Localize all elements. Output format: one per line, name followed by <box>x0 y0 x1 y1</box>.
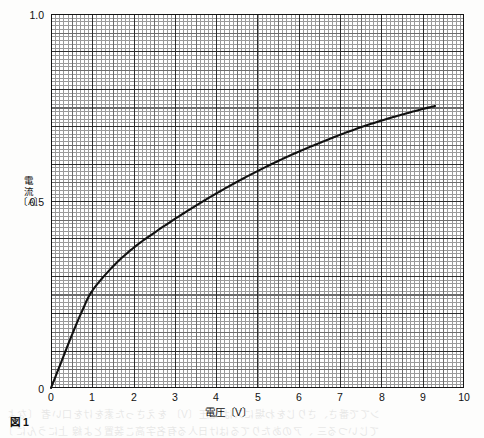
x-tick-label: 9 <box>408 391 438 403</box>
mid-gridlines <box>51 14 464 388</box>
x-tick-label: 3 <box>160 391 190 403</box>
y-axis-title-unit: 〔A〕 <box>18 197 40 208</box>
x-axis-title: 電圧〔V〕 <box>205 404 252 419</box>
x-tick-label: 7 <box>325 391 355 403</box>
y-tick-label: 1.0 <box>12 9 44 21</box>
y-axis-title-char: 電 <box>18 176 40 187</box>
plot-area <box>51 14 464 388</box>
x-tick-label: 5 <box>243 391 273 403</box>
x-tick-label: 2 <box>119 391 149 403</box>
x-tick-label: 1 <box>77 391 107 403</box>
x-tick-label: 10 <box>449 391 479 403</box>
x-tick-label: 8 <box>367 391 397 403</box>
x-tick-label: 6 <box>284 391 314 403</box>
major-gridlines <box>51 14 464 388</box>
y-axis-title: 電 流 〔A〕 <box>18 176 40 208</box>
iv-characteristic-figure: 0 1 2 3 4 5 6 7 8 9 10 0 0.5 1.0 電 流 〔A〕… <box>0 0 484 438</box>
y-tick-label: 0 <box>12 383 44 395</box>
x-tick-label: 4 <box>201 391 231 403</box>
minor-gridlines <box>51 14 464 388</box>
figure-caption: 図 1 <box>10 414 29 429</box>
